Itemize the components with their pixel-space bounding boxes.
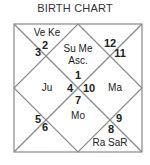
house-3-sign: 3 (35, 47, 41, 58)
house-1-planets: Su Me (64, 44, 93, 54)
house-8-sign: 8 (108, 124, 114, 135)
house-1-ascendant: Asc. (68, 56, 87, 66)
house-10-sign: 10 (83, 83, 95, 94)
house-1-sign: 1 (75, 70, 81, 81)
house-12-sign: 12 (104, 38, 116, 49)
house-8-planets: Ra SaR (92, 138, 127, 148)
house-5-sign: 5 (35, 114, 41, 125)
house-4-planets: Ju (42, 83, 53, 93)
house-7-sign: 7 (75, 95, 81, 106)
house-11-sign: 11 (114, 48, 126, 59)
house-6-sign: 6 (42, 122, 48, 133)
house-7-planets: Mo (71, 111, 85, 121)
house-2-planets: Ve Ke (34, 28, 61, 38)
house-2-sign: 2 (42, 40, 48, 51)
house-9-sign: 9 (116, 113, 122, 124)
house-10-planets: Ma (108, 83, 122, 93)
house-4-sign: 4 (67, 83, 73, 94)
